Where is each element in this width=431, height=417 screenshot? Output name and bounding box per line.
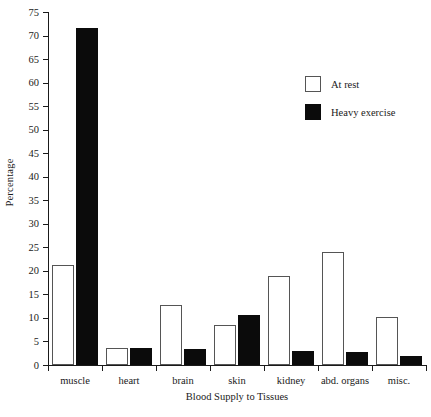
- x-axis-category-label: abd. organs: [321, 374, 369, 388]
- y-axis-title: Percentage: [0, 0, 18, 365]
- bar-skin-at-rest: [214, 325, 236, 365]
- x-axis-separator-tick: [426, 365, 427, 371]
- y-axis-tick-label: 30: [29, 216, 40, 231]
- legend-label: Heavy exercise: [331, 107, 395, 118]
- y-axis-title-text: Percentage: [4, 158, 15, 206]
- bar-heart-heavy-exercise: [130, 348, 152, 365]
- bar-misc--at-rest: [376, 317, 398, 365]
- x-axis-separator-tick: [264, 365, 265, 371]
- x-axis-separator-tick: [48, 365, 49, 371]
- x-axis-title: Blood Supply to Tissues: [48, 391, 426, 402]
- x-axis-separator-tick: [156, 365, 157, 371]
- y-axis-tick-label: 35: [29, 193, 40, 208]
- legend-swatch-heavy-exercise-icon: [305, 104, 321, 120]
- y-axis-tick: 20: [43, 271, 48, 272]
- bar-brain-heavy-exercise: [184, 349, 206, 365]
- y-axis-tick-label: 55: [29, 99, 40, 114]
- x-axis-separator-tick: [102, 365, 103, 371]
- y-axis-tick: 25: [43, 247, 48, 248]
- x-axis-category-label: skin: [228, 374, 246, 388]
- bar-kidney-at-rest: [268, 276, 290, 365]
- y-axis-tick-label: 75: [29, 5, 40, 20]
- x-axis-separator-tick: [210, 365, 211, 371]
- bar-brain-at-rest: [160, 305, 182, 365]
- y-axis-tick: 10: [43, 318, 48, 319]
- x-axis-category-label: muscle: [60, 374, 90, 388]
- x-axis-separator-tick: [318, 365, 319, 371]
- bar-muscle-heavy-exercise: [76, 28, 98, 365]
- y-axis-tick: 70: [43, 36, 48, 37]
- legend-swatch-at-rest-icon: [305, 76, 321, 92]
- bar-skin-heavy-exercise: [238, 315, 260, 365]
- y-axis-tick: 60: [43, 83, 48, 84]
- y-axis-tick: 5: [43, 341, 48, 342]
- chart-legend: At restHeavy exercise: [305, 70, 395, 126]
- bar-abd-organs-at-rest: [322, 252, 344, 365]
- y-axis-tick-label: 0: [34, 358, 39, 373]
- y-axis-tick-label: 70: [29, 28, 40, 43]
- y-axis-tick: 40: [43, 177, 48, 178]
- x-axis-category-label: heart: [119, 374, 140, 388]
- y-axis-tick: 35: [43, 200, 48, 201]
- bar-muscle-at-rest: [52, 265, 74, 365]
- y-axis-tick: 55: [43, 106, 48, 107]
- bar-abd-organs-heavy-exercise: [346, 352, 368, 365]
- bar-kidney-heavy-exercise: [292, 351, 314, 365]
- bar-heart-at-rest: [106, 348, 128, 365]
- y-axis-tick-label: 20: [29, 263, 40, 278]
- y-axis-tick-label: 60: [29, 75, 40, 90]
- y-axis-tick-label: 40: [29, 169, 40, 184]
- x-axis-category-label: kidney: [277, 374, 306, 388]
- bar-misc--heavy-exercise: [400, 356, 422, 365]
- y-axis-tick: 65: [43, 59, 48, 60]
- y-axis-tick-label: 25: [29, 240, 40, 255]
- x-axis-line: [48, 365, 426, 366]
- x-axis-category-label: misc.: [388, 374, 410, 388]
- legend-label: At rest: [331, 79, 359, 90]
- legend-item: At rest: [305, 70, 395, 98]
- y-axis-tick: 50: [43, 130, 48, 131]
- plot-area: 051015202530354045505560657075 musclehea…: [48, 12, 426, 365]
- y-axis-line: [48, 12, 49, 365]
- y-axis-tick: 30: [43, 224, 48, 225]
- y-axis-tick-label: 10: [29, 310, 40, 325]
- y-axis-tick: 75: [43, 12, 48, 13]
- x-axis-category-label: brain: [172, 374, 194, 388]
- y-axis-tick-label: 65: [29, 52, 40, 67]
- legend-item: Heavy exercise: [305, 98, 395, 126]
- y-axis-tick: 15: [43, 294, 48, 295]
- bar-chart-figure: Percentage 05101520253035404550556065707…: [0, 0, 431, 417]
- y-axis-tick-label: 15: [29, 287, 40, 302]
- y-axis-tick-label: 50: [29, 122, 40, 137]
- x-axis-separator-tick: [372, 365, 373, 371]
- y-axis-tick: 45: [43, 153, 48, 154]
- y-axis-tick-label: 45: [29, 146, 40, 161]
- y-axis-tick-label: 5: [34, 334, 39, 349]
